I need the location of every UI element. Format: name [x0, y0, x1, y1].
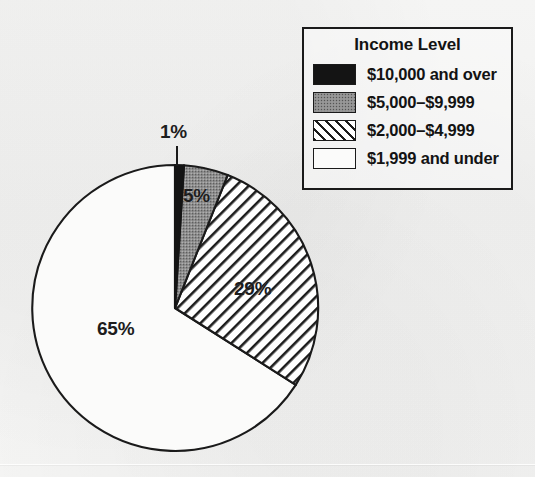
legend-item-10000-and-over: $10,000 and over: [304, 60, 511, 88]
legend-item-under-1999: $1,999 and under: [304, 144, 511, 172]
white-swatch-icon: [313, 148, 356, 169]
data-label-5-percent: 5%: [183, 185, 210, 207]
data-label-65-percent: 65%: [97, 318, 134, 340]
legend-item-label: $10,000 and over: [367, 65, 497, 84]
data-label-29-percent: 29%: [234, 278, 271, 300]
data-label-1-percent: 1%: [160, 121, 187, 143]
legend-item-5000-9999: $5,000–$9,999: [304, 88, 511, 116]
legend-item-label: $2,000–$4,999: [367, 121, 475, 140]
legend: Income Level $10,000 and over $5,000–$9,…: [302, 27, 513, 190]
gray-stipple-swatch-icon: [313, 92, 356, 113]
solid-black-swatch-icon: [313, 64, 356, 85]
diagonal-hatch-swatch-icon: [313, 120, 356, 141]
legend-item-label: $1,999 and under: [367, 149, 499, 168]
pie-chart: 1% 5% 29% 65% Income Level $10,000 and o…: [0, 0, 535, 477]
legend-item-2000-4999: $2,000–$4,999: [304, 116, 511, 144]
legend-title: Income Level: [304, 35, 511, 55]
legend-item-label: $5,000–$9,999: [367, 93, 475, 112]
